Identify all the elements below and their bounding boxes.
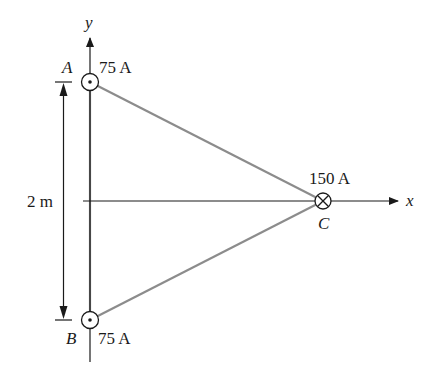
diagram-canvas bbox=[0, 0, 445, 365]
arrow-down-icon bbox=[60, 306, 68, 319]
wire-b-label: B bbox=[66, 330, 76, 347]
wire-a-current: 75 A bbox=[99, 59, 132, 76]
dimension-line bbox=[55, 82, 72, 320]
dimension-label: 2 m bbox=[27, 193, 53, 210]
wire-a-dot-circle-icon bbox=[82, 74, 99, 91]
wire-b-dot-circle-icon bbox=[82, 312, 99, 329]
y-axis-label: y bbox=[85, 14, 93, 31]
side-bc bbox=[90, 201, 323, 320]
wire-c-current: 150 A bbox=[309, 170, 350, 187]
side-ac bbox=[90, 82, 323, 201]
x-axis-label: x bbox=[406, 192, 414, 209]
wire-b-current: 75 A bbox=[98, 330, 131, 347]
arrow-up-icon bbox=[60, 83, 68, 96]
wire-a-label: A bbox=[62, 59, 72, 76]
wire-c-cross-circle-icon bbox=[315, 193, 331, 209]
wire-c-label: C bbox=[318, 215, 329, 232]
